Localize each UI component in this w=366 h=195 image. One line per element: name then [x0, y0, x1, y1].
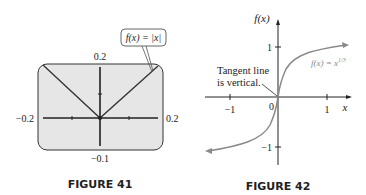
curve-right-arrow-icon: [342, 42, 349, 48]
x-tick-1: 1: [325, 104, 330, 115]
curve-left-arrow-icon: [205, 148, 212, 154]
figure-42-caption: FIGURE 42: [246, 180, 311, 193]
x-right-label: 0.2: [166, 113, 179, 124]
figure-41: f(x) = |x| 0.2 −0.1 −0.2 0.2 FIGURE 41: [16, 29, 179, 191]
y-top-label: 0.2: [94, 51, 107, 62]
annotation-pointer: [262, 84, 277, 96]
figure-42: f(x) x −1 1 0 1 −1 Tangent line is verti…: [205, 12, 352, 193]
y-axis-label: f(x): [254, 12, 270, 25]
origin-label: 0: [269, 101, 274, 112]
annotation-line-2: is vertical.: [217, 77, 261, 88]
y-bottom-label: −0.1: [91, 153, 109, 164]
callout-label: f(x) = |x|: [126, 32, 162, 44]
figure-41-caption: FIGURE 41: [68, 178, 133, 191]
y-tick-neg1: −1: [261, 142, 272, 153]
x-left-label: −0.2: [16, 113, 34, 124]
x-tick-neg1: −1: [225, 104, 236, 115]
y-axis-arrow-icon: [276, 19, 280, 25]
figures-canvas: f(x) = |x| 0.2 −0.1 −0.2 0.2 FIGURE 41 f…: [0, 0, 366, 195]
annotation-line-1: Tangent line: [217, 65, 269, 76]
x-axis-arrow-icon: [346, 95, 352, 99]
curve-label: f(x) = x1/3: [311, 57, 346, 68]
x-axis-label: x: [342, 101, 348, 113]
y-tick-1: 1: [267, 42, 272, 53]
